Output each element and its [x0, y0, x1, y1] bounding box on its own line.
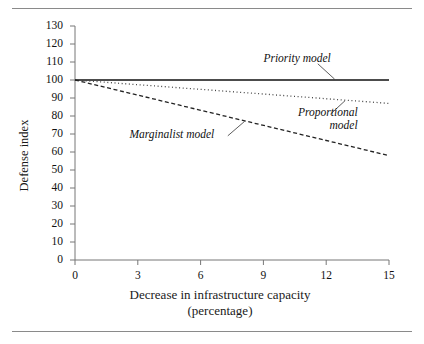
- series-label-proportional-line1: Proportional: [266, 106, 358, 119]
- y-tick-label: 60: [33, 146, 63, 158]
- series-label-proportional-line2: model: [266, 119, 358, 132]
- y-axis-title: Defense index: [17, 96, 32, 216]
- x-tick-label: 12: [314, 270, 338, 282]
- series-label-proportional-model: Proportional model: [266, 106, 358, 132]
- y-tick-label: 30: [33, 200, 63, 212]
- x-axis-title-line1: Decrease in infrastructure capacity: [60, 287, 380, 303]
- leader-line: [318, 64, 335, 79]
- series-label-marginalist-model: Marginalist model: [129, 128, 214, 141]
- x-tick-label: 0: [63, 270, 87, 282]
- y-tick-label: 20: [33, 218, 63, 230]
- tick-marks-group: [70, 26, 389, 265]
- x-tick-label: 6: [189, 270, 213, 282]
- y-tick-label: 110: [33, 56, 63, 68]
- x-tick-label: 9: [251, 270, 275, 282]
- y-tick-label: 120: [33, 38, 63, 50]
- leader-line: [228, 121, 245, 135]
- axes-group: [75, 26, 389, 260]
- x-tick-label: 3: [126, 270, 150, 282]
- y-tick-label: 0: [33, 254, 63, 266]
- y-tick-label: 70: [33, 128, 63, 140]
- y-tick-label: 10: [33, 236, 63, 248]
- y-tick-label: 50: [33, 164, 63, 176]
- x-tick-label: 15: [377, 270, 401, 282]
- y-tick-label: 90: [33, 92, 63, 104]
- figure-container: 0102030405060708090100110120130 03691215…: [0, 0, 424, 344]
- y-tick-label: 100: [33, 74, 63, 86]
- series-label-priority-model: Priority model: [263, 52, 330, 65]
- x-axis-title: Decrease in infrastructure capacity (per…: [60, 287, 380, 319]
- y-tick-label: 130: [33, 20, 63, 32]
- y-tick-label: 40: [33, 182, 63, 194]
- y-tick-label: 80: [33, 110, 63, 122]
- x-axis-title-line2: (percentage): [60, 303, 380, 319]
